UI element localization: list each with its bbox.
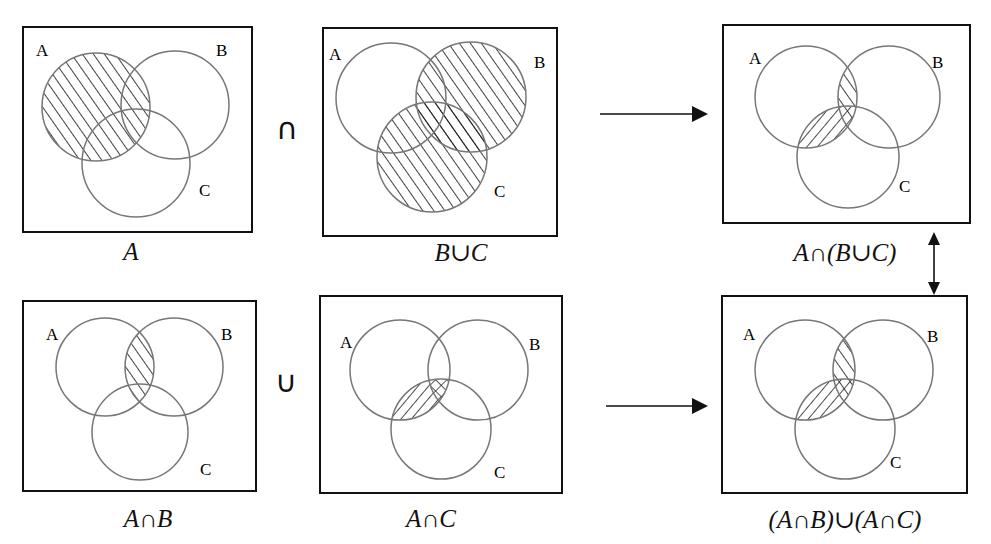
panel-a-intersect-c: A B C [320,296,562,493]
label-b: B [534,53,545,72]
circle-b [428,320,528,420]
label-b: B [216,41,227,60]
label-a: A [46,325,59,344]
caption-a-intersect-c: A∩C [406,505,456,533]
label-b: B [221,325,232,344]
label-a: A [743,325,756,344]
label-a: A [749,49,762,68]
label-c: C [890,453,901,472]
caption-a-intersect-b: A∩B [124,505,173,533]
caption-a-intersect-b-union-a-intersect-c: (A∩B)∪(A∩C) [769,505,922,534]
union-operator: ∪ [275,364,297,399]
panel-b-union-c: A B C [323,28,557,236]
label-c: C [200,460,211,479]
label-b: B [529,335,540,354]
intersection-operator: ∩ [276,111,298,146]
label-a: A [329,45,342,64]
panel-a: A B C [23,27,252,232]
arrow-bottom-right [606,398,708,414]
label-b: B [932,53,943,72]
label-b: B [927,327,938,346]
caption-a-intersect-b-union-c: A∩(B∪C) [794,238,897,267]
arrow-top-right [600,106,708,122]
caption-a: A [123,238,138,266]
caption-b-union-c: B∪C [435,238,488,267]
label-a: A [340,333,353,352]
label-c: C [199,181,210,200]
label-c: C [494,463,505,482]
label-a: A [36,41,49,60]
panel-a-intersect-b: A B C [23,301,256,491]
panel-a-intersect-b-union-c: A B C [723,25,970,223]
label-c: C [494,182,505,201]
venn-diagram-figure: A B C A B C A B C A [0,0,991,544]
double-arrow-equal [928,232,940,295]
panel-a-intersect-b-union-a-intersect-c: A B C [722,296,967,493]
label-c: C [899,177,910,196]
